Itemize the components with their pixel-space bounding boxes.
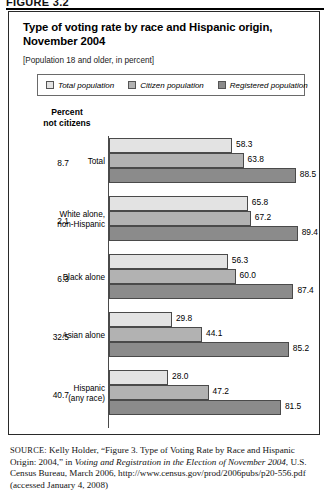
- percent-not-citizens-header: Percent not citizens: [31, 107, 103, 128]
- bar-wrapper: 58.3: [109, 138, 232, 153]
- bar-citizen-population: [109, 327, 202, 342]
- bar-group: 8.7Total58.363.888.5: [9, 134, 321, 192]
- bar-wrapper: 87.4: [109, 284, 293, 299]
- bar-wrapper: 44.1: [109, 327, 202, 342]
- bar-registered-population: [109, 226, 298, 241]
- bar-value-label: 63.8: [248, 154, 264, 164]
- bar-total-population: [109, 138, 232, 153]
- bar-total-population: [109, 312, 172, 327]
- bar-wrapper: 29.8: [109, 312, 172, 327]
- legend-label-total-population: Total population: [58, 81, 114, 90]
- bar-wrapper: 47.2: [109, 385, 209, 400]
- figure-panel: Type of voting rate by race and Hispanic…: [8, 11, 320, 435]
- bar-citizen-population: [109, 153, 244, 168]
- legend-item-citizen-population: Citizen population: [128, 81, 204, 90]
- category-label-line: Total: [55, 157, 105, 167]
- source-italic-title: Voting and Registration in the Election …: [75, 457, 286, 467]
- category-label-line: non-Hispanic: [55, 220, 105, 230]
- chart-legend: Total population Citizen population Regi…: [37, 74, 305, 96]
- bar-wrapper: 81.5: [109, 400, 281, 415]
- legend-swatch-citizen-icon: [128, 81, 136, 89]
- bar-total-population: [109, 196, 248, 211]
- category-label-line: Hispanic: [55, 384, 105, 394]
- bar-value-label: 88.5: [300, 169, 316, 179]
- bar-wrapper: 67.2: [109, 211, 251, 226]
- legend-label-registered-population: Registered population: [230, 81, 308, 90]
- legend-item-registered-population: Registered population: [218, 81, 308, 90]
- category-label: Total: [55, 157, 105, 167]
- legend-swatch-total-icon: [46, 81, 54, 89]
- legend-swatch-registered-icon: [218, 81, 226, 89]
- category-label-line: (any race): [55, 394, 105, 404]
- bar-value-label: 87.4: [297, 285, 313, 295]
- bar-value-label: 44.1: [206, 328, 222, 338]
- bar-wrapper: 60.0: [109, 269, 236, 284]
- bar-registered-population: [109, 284, 293, 299]
- bar-registered-population: [109, 400, 281, 415]
- chart-subtitle: [Population 18 and older, in percent]: [23, 56, 154, 65]
- bar-wrapper: 85.2: [109, 342, 289, 357]
- percent-not-citizens-header-line1: Percent: [31, 107, 103, 118]
- figure-header-rule: [6, 8, 324, 10]
- bar-registered-population: [109, 342, 289, 357]
- bar-value-label: 58.3: [236, 139, 252, 149]
- category-label: Black alone: [55, 273, 105, 283]
- bar-value-label: 47.2: [213, 386, 229, 396]
- bar-group: 2.1White alone,non-Hispanic65.867.289.4: [9, 192, 321, 250]
- bar-value-label: 60.0: [240, 270, 256, 280]
- bar-value-label: 67.2: [255, 212, 271, 222]
- category-label: White alone,non-Hispanic: [55, 210, 105, 230]
- percent-not-citizens-header-line2: not citizens: [31, 118, 103, 129]
- bar-citizen-population: [109, 211, 251, 226]
- legend-item-total-population: Total population: [46, 81, 114, 90]
- bar-value-label: 56.3: [232, 255, 248, 265]
- chart-title: Type of voting rate by race and Hispanic…: [23, 20, 305, 48]
- bar-wrapper: 28.0: [109, 370, 168, 385]
- plot-area: 8.7Total58.363.888.52.1White alone,non-H…: [9, 134, 321, 430]
- source-note: SOURCE: Kelly Holder, “Figure 3. Type of…: [10, 445, 320, 491]
- bar-value-label: 29.8: [176, 313, 192, 323]
- bar-wrapper: 65.8: [109, 196, 248, 211]
- bar-value-label: 65.8: [252, 197, 268, 207]
- bar-value-label: 89.4: [302, 227, 318, 237]
- legend-label-citizen-population: Citizen population: [140, 81, 204, 90]
- category-label: Hispanic(any race): [55, 384, 105, 404]
- bar-wrapper: 63.8: [109, 153, 244, 168]
- bar-group: 40.7Hispanic(any race)28.047.281.5: [9, 366, 321, 424]
- bar-group: 6.3Black alone56.360.087.4: [9, 250, 321, 308]
- bar-value-label: 85.2: [293, 343, 309, 353]
- bar-value-label: 81.5: [285, 401, 301, 411]
- bar-citizen-population: [109, 269, 236, 284]
- category-label-line: Black alone: [55, 273, 105, 283]
- bar-group: 32.5Asian alone29.844.185.2: [9, 308, 321, 366]
- source-label: SOURCE:: [10, 446, 47, 455]
- bar-total-population: [109, 370, 168, 385]
- bar-registered-population: [109, 168, 296, 183]
- bar-wrapper: 56.3: [109, 254, 228, 269]
- category-label-line: White alone,: [55, 210, 105, 220]
- figure-label: FIGURE 3.2: [6, 0, 69, 8]
- bar-total-population: [109, 254, 228, 269]
- bar-wrapper: 88.5: [109, 168, 296, 183]
- bar-wrapper: 89.4: [109, 226, 298, 241]
- category-label: Asian alone: [55, 331, 105, 341]
- category-label-line: Asian alone: [55, 331, 105, 341]
- bar-value-label: 28.0: [172, 371, 188, 381]
- bar-citizen-population: [109, 385, 209, 400]
